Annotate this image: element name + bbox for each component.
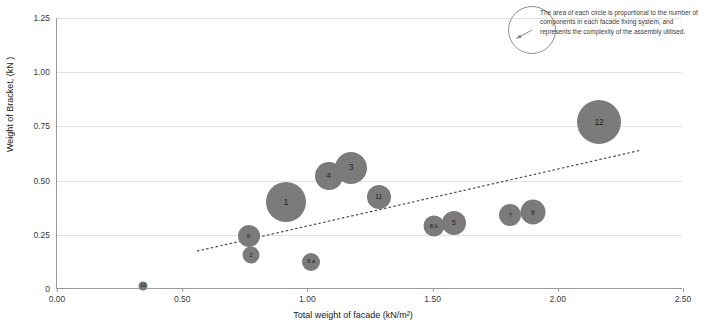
y-tick-label-0-25: 0.25 bbox=[33, 230, 50, 240]
trendline bbox=[57, 18, 683, 289]
x-tick-label-0-50: 0.50 bbox=[174, 294, 191, 304]
bubble-label: 10 bbox=[140, 283, 146, 289]
x-tick-label-1-00: 1.00 bbox=[299, 294, 316, 304]
bubble-label: 6 bbox=[247, 233, 250, 239]
bubble-label: 5 bbox=[452, 220, 456, 227]
bubble-point[interactable]: 7 bbox=[499, 204, 521, 226]
y-tick-label-0-50: 0.50 bbox=[33, 176, 50, 186]
bubble-label: 7 bbox=[509, 212, 512, 218]
bubble-point[interactable]: 11 bbox=[367, 185, 391, 209]
bubble-point[interactable]: 10 bbox=[139, 281, 148, 290]
bubble-label: 4 bbox=[326, 172, 330, 180]
x-tick-mark-2-50 bbox=[683, 288, 684, 292]
plot-area: 1.25 1.00 0.75 0.50 0.25 0 0.00 0.50 1.0… bbox=[56, 18, 682, 289]
bubble-label: 8.b bbox=[430, 223, 438, 229]
y-tick-label-0: 0 bbox=[45, 284, 50, 294]
bubble-label: 11 bbox=[375, 194, 382, 201]
bubble-point[interactable]: 5 bbox=[442, 211, 466, 235]
chart-root: Weight of Bracket, (kN ) Total weight of… bbox=[0, 0, 706, 329]
x-tick-label-2-00: 2.00 bbox=[550, 294, 567, 304]
y-axis-label: Weight of Bracket, (kN ) bbox=[5, 57, 15, 152]
bubble-label: 12 bbox=[594, 118, 603, 127]
bubble-point[interactable]: 8.b bbox=[423, 216, 444, 237]
x-tick-label-2-50: 2.50 bbox=[675, 294, 692, 304]
bubble-label: 1 bbox=[284, 198, 289, 207]
annotation-text: The area of each circle is proportional … bbox=[540, 8, 700, 36]
bubble-label: 2 bbox=[250, 253, 253, 259]
bubble-label: 8.a bbox=[307, 259, 315, 265]
bubble-label: 3 bbox=[349, 163, 354, 172]
y-tick-label-1-25: 1.25 bbox=[33, 13, 50, 23]
bubble-point[interactable]: 1 bbox=[266, 182, 306, 222]
bubble-point[interactable]: 2 bbox=[243, 247, 260, 264]
bubble-point[interactable]: 12 bbox=[577, 100, 621, 144]
x-axis-label: Total weight of facade (kN/m²) bbox=[0, 310, 706, 320]
bubble-point[interactable]: 6 bbox=[238, 225, 260, 247]
bubble-point[interactable]: 9 bbox=[520, 200, 545, 225]
bubble-point[interactable]: 3 bbox=[335, 152, 367, 184]
bubble-label: 9 bbox=[531, 209, 535, 216]
y-tick-label-1-00: 1.00 bbox=[33, 67, 50, 77]
x-tick-label-0-00: 0.00 bbox=[49, 294, 66, 304]
bubble-point[interactable]: 8.a bbox=[302, 253, 320, 271]
y-tick-label-0-75: 0.75 bbox=[33, 121, 50, 131]
x-tick-label-1-50: 1.50 bbox=[424, 294, 441, 304]
